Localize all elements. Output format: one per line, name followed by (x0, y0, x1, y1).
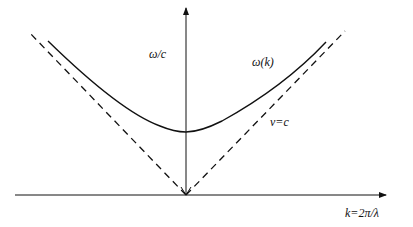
y-axis-label: ω/c (149, 47, 166, 62)
asymptote-label: v=c (270, 115, 289, 130)
curve-label: ω(k) (252, 55, 274, 70)
diagram-svg (0, 0, 413, 227)
x-axis-label: k=2π/λ (345, 206, 379, 221)
dispersion-diagram: ω/c ω(k) v=c k=2π/λ (0, 0, 413, 227)
